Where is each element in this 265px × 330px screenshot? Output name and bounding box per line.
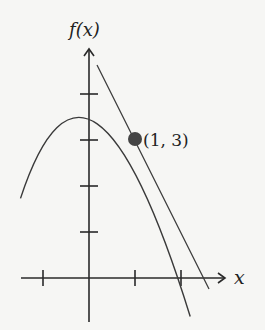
- function-tangent-diagram: (1, 3) f(x) x: [0, 0, 265, 330]
- y-axis-label: f(x): [67, 19, 100, 40]
- axes: [21, 49, 225, 322]
- point-label: (1, 3): [143, 130, 189, 150]
- tangent-point: [128, 132, 142, 146]
- tangent-line: [97, 65, 209, 289]
- x-axis-label: x: [234, 266, 245, 288]
